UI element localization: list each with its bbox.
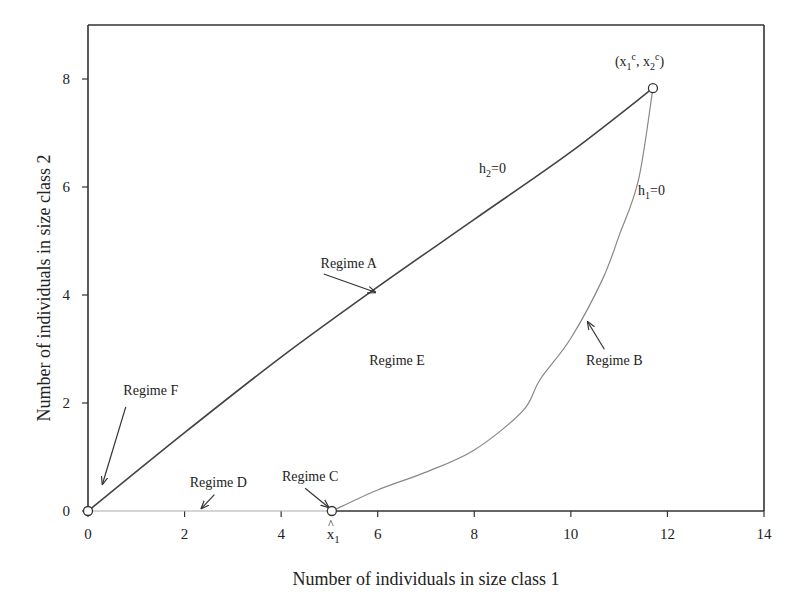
point-origin: [84, 507, 93, 516]
x-tick-label: 10: [563, 526, 578, 542]
annotation-regime-f: Regime F: [123, 383, 178, 398]
hat-mark: ^: [328, 517, 334, 531]
phase-plane-chart: 0246810121402468 h2=0h1=0Regime ARegime …: [0, 0, 804, 608]
point-x1-hat: [327, 507, 336, 516]
x-tick-label: 8: [471, 526, 479, 542]
annotation-regime-a: Regime A: [321, 256, 378, 271]
x-tick-label: 12: [660, 526, 675, 542]
y-tick-label: 8: [63, 71, 71, 87]
point-critical-point: [648, 84, 657, 93]
annotation-arrow: [201, 495, 214, 509]
x-axis-label: Number of individuals in size class 1: [293, 569, 560, 589]
annotation-regime-c: Regime C: [282, 469, 338, 484]
series-h2-0: [88, 88, 653, 511]
x-tick-label: 14: [757, 526, 773, 542]
annotation-arrow: [588, 322, 605, 349]
y-tick-label: 4: [63, 287, 71, 303]
x-tick-label: 4: [277, 526, 285, 542]
x-tick-label: 0: [84, 526, 92, 542]
h2-label: h2=0: [479, 161, 506, 179]
annotation-regime-e: Regime E: [369, 353, 425, 368]
annotation-regime-b: Regime B: [586, 353, 642, 368]
series-h1-0: [332, 88, 653, 511]
h1-label: h1=0: [638, 183, 665, 201]
y-tick-label: 6: [63, 179, 71, 195]
critical-point-label: (x1c, x2c): [615, 51, 665, 72]
annotation-arrow: [102, 407, 125, 484]
x-tick-label: 2: [181, 526, 189, 542]
annotation-arrow: [305, 488, 328, 507]
y-tick-label: 0: [63, 503, 71, 519]
annotation-regime-d: Regime D: [190, 475, 247, 490]
x-tick-label: 6: [374, 526, 382, 542]
y-tick-label: 2: [63, 395, 71, 411]
y-axis-label: Number of individuals in size class 2: [34, 155, 54, 422]
annotation-arrow: [324, 274, 376, 292]
